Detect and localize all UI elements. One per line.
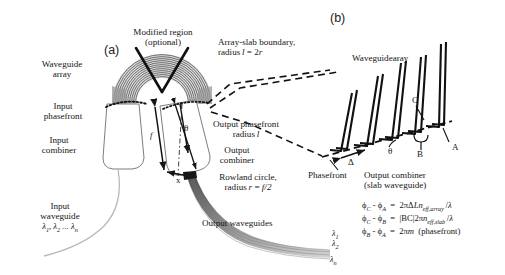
output-waveguides-label: Output waveguides — [202, 219, 272, 229]
array-slab-boundary-label: Array-slab boundary, radius l = 2r — [218, 38, 295, 58]
angle-theta-label-b: θ — [388, 147, 392, 157]
delta-label-b: Δ — [348, 158, 354, 168]
output-lambda-n: λn — [330, 256, 337, 266]
point-b-label: B — [417, 150, 423, 160]
array-slab-leader-lines — [207, 70, 338, 156]
output-combiner-label-b: Output combiner (slab waveguide) — [364, 171, 426, 191]
input-waveguide-label: Input waveguide λ1, λ2 ... λn — [14, 202, 106, 233]
input-phasefront-label: Input phasefront — [28, 102, 98, 122]
output-lambda-2: λ2 — [332, 240, 339, 250]
dimension-f-label: f — [150, 131, 152, 140]
dimension-l-label: l — [180, 101, 182, 110]
waveguide-array-label: Waveguide array — [26, 60, 98, 80]
equation-1: ϕC - ϕA = 2πΔLneff,array /λ — [362, 200, 452, 212]
phasefront-label-b: Phasefront — [308, 171, 347, 181]
modified-region-label: Modified region (optional) — [104, 28, 222, 48]
equation-3: ϕB - ϕA = 2πm (phasefront) — [362, 226, 460, 238]
waveguide-array-label-b: Waveguidearay — [352, 54, 408, 64]
waveguide-array-arcs — [112, 54, 212, 104]
point-a-leader — [443, 128, 449, 142]
point-b-brace — [414, 135, 428, 150]
input-combiner-body — [103, 104, 144, 169]
rowland-circle-label: Rowland circle, radius r = f/2 — [206, 173, 290, 193]
figure-canvas: (a) Modified region (optional) Waveguide… — [0, 0, 505, 275]
output-combiner-label-a: Output combiner — [206, 146, 268, 166]
point-a-label: A — [452, 143, 459, 153]
phasefront-leader-b — [330, 160, 338, 170]
angle-theta-label-a: θ — [184, 124, 188, 134]
equation-2: ϕC - ϕB = |BC|2πneff,slab /λ — [362, 213, 453, 225]
input-combiner-label: Input combiner — [20, 136, 98, 156]
point-c-label: C — [412, 96, 418, 106]
panel-b-tag: (b) — [330, 12, 345, 26]
dimension-x-label: x — [176, 176, 180, 185]
output-phasefront-label: Output phasefront radius l — [198, 120, 294, 140]
input-waveguide-lambdas: λ1, λ2 ... λn — [14, 222, 106, 233]
